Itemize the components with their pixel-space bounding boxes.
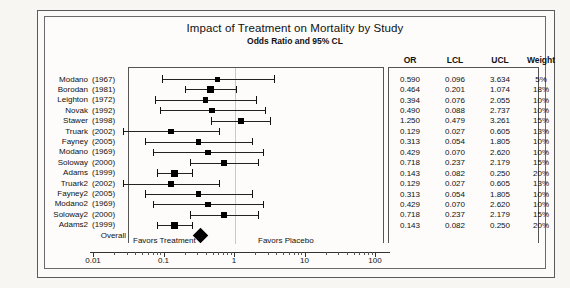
effect-size-marker	[207, 86, 214, 93]
stat-cell-or: 0.490	[390, 106, 430, 115]
ci-lower-cap	[123, 180, 124, 187]
x-tick-label: 10	[285, 256, 325, 265]
effect-size-marker	[171, 222, 178, 229]
x-tick-minor	[364, 252, 365, 255]
stat-cell-ucl: 2.620	[480, 148, 520, 157]
x-tick-minor	[283, 252, 284, 255]
stat-cell-weight: 20%	[521, 221, 561, 230]
x-tick-minor	[255, 252, 256, 255]
ci-upper-cap	[236, 86, 237, 93]
stat-cell-or: 0.718	[390, 210, 430, 219]
stat-cell-weight: 10%	[521, 190, 561, 199]
x-tick-minor	[338, 252, 339, 255]
stat-cell-lcl: 0.088	[435, 106, 475, 115]
stat-cell-ucl: 1.805	[480, 190, 520, 199]
ci-lower-cap	[153, 149, 154, 156]
x-tick-minor	[372, 252, 373, 255]
stat-cell-ucl: 0.605	[480, 179, 520, 188]
stat-cell-ucl: 0.250	[480, 221, 520, 230]
ci-lower-cap	[123, 128, 124, 135]
effect-size-marker	[168, 129, 174, 135]
stat-cell-lcl: 0.054	[435, 137, 475, 146]
column-header-weight: Weight	[521, 55, 561, 65]
x-tick-minor	[197, 252, 198, 255]
x-tick-minor	[276, 252, 277, 255]
ci-lower-cap	[185, 86, 186, 93]
stat-cell-lcl: 0.027	[435, 127, 475, 136]
x-tick-minor	[289, 252, 290, 255]
stat-cell-or: 0.143	[390, 169, 430, 178]
stat-cell-lcl: 0.054	[435, 190, 475, 199]
stat-cell-weight: 15%	[521, 158, 561, 167]
stat-cell-ucl: 2.179	[480, 158, 520, 167]
stat-cell-lcl: 0.070	[435, 200, 475, 209]
stat-cell-or: 0.464	[390, 85, 430, 94]
ci-lower-cap	[160, 107, 161, 114]
x-tick-label: 1	[214, 256, 254, 265]
table-top-rule	[388, 67, 538, 68]
x-tick-minor	[294, 252, 295, 255]
ci-upper-cap	[274, 75, 275, 82]
x-tick-label: 0.01	[73, 256, 113, 265]
x-tick-minor	[127, 252, 128, 255]
x-tick-minor	[347, 252, 348, 255]
x-tick-minor	[223, 252, 224, 255]
stat-cell-ucl: 2.055	[480, 96, 520, 105]
stat-cell-lcl: 0.070	[435, 148, 475, 157]
stat-cell-ucl: 3.634	[480, 75, 520, 84]
x-tick-minor	[135, 252, 136, 255]
effect-size-marker	[215, 77, 220, 82]
ci-upper-cap	[258, 211, 259, 218]
ci-lower-cap	[157, 169, 158, 176]
ci-upper-cap	[252, 190, 253, 197]
x-tick-minor	[114, 252, 115, 255]
stat-cell-ucl: 0.605	[480, 127, 520, 136]
stat-cell-or: 0.129	[390, 127, 430, 136]
stat-cell-lcl: 0.082	[435, 221, 475, 230]
stat-cell-or: 0.429	[390, 148, 430, 157]
x-tick-minor	[206, 252, 207, 255]
x-tick-minor	[148, 252, 149, 255]
x-tick-minor	[326, 252, 327, 255]
stat-cell-lcl: 0.027	[435, 179, 475, 188]
favors-placebo-label: Favors Placebo	[258, 236, 314, 245]
stat-cell-weight: 18%	[521, 85, 561, 94]
ci-lower-cap	[145, 138, 146, 145]
x-tick-minor	[157, 252, 158, 255]
stat-cell-or: 0.313	[390, 137, 430, 146]
effect-size-marker	[196, 139, 202, 145]
ci-lower-cap	[157, 222, 158, 229]
ci-upper-cap	[258, 159, 259, 166]
stat-cell-weight: 5%	[521, 75, 561, 84]
stat-cell-or: 0.429	[390, 200, 430, 209]
effect-size-marker	[209, 108, 215, 114]
stat-cell-ucl: 2.620	[480, 200, 520, 209]
x-tick-minor	[354, 252, 355, 255]
effect-size-marker	[221, 160, 227, 166]
column-header-ucl: UCL	[480, 55, 520, 65]
ci-upper-cap	[270, 117, 271, 124]
stat-cell-lcl: 0.237	[435, 158, 475, 167]
x-tick-minor	[368, 252, 369, 255]
column-header-lcl: LCL	[435, 55, 475, 65]
stat-cell-lcl: 0.201	[435, 85, 475, 94]
ci-upper-cap	[219, 128, 220, 135]
favors-treatment-label: Favors Treatment	[133, 236, 196, 245]
x-tick-minor	[185, 252, 186, 255]
ci-upper-cap	[252, 138, 253, 145]
stat-cell-lcl: 0.076	[435, 96, 475, 105]
effect-size-marker	[171, 170, 178, 177]
ci-lower-cap	[162, 75, 163, 82]
ci-lower-cap	[145, 190, 146, 197]
ci-lower-cap	[153, 201, 154, 208]
ci-upper-cap	[256, 96, 257, 103]
x-tick-minor	[268, 252, 269, 255]
x-tick-minor	[218, 252, 219, 255]
effect-size-marker	[238, 118, 244, 124]
stat-cell-or: 0.718	[390, 158, 430, 167]
ci-lower-cap	[190, 159, 191, 166]
x-tick-minor	[160, 252, 161, 255]
ci-lower-cap	[155, 96, 156, 103]
x-tick-minor	[142, 252, 143, 255]
ci-upper-cap	[263, 201, 264, 208]
